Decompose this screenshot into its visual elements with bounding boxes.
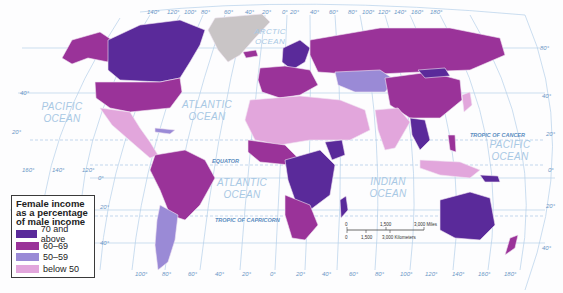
lon-label: 80° bbox=[375, 271, 385, 277]
madagascar bbox=[340, 196, 348, 218]
lon-label: 60° bbox=[224, 9, 234, 15]
scandinavia bbox=[282, 40, 310, 70]
legend-item-below-50: below 50 bbox=[16, 264, 90, 274]
lat-label: 0° bbox=[548, 167, 554, 173]
usa bbox=[95, 78, 182, 112]
arctic-ocean-label-line2: OCEAN bbox=[255, 37, 285, 46]
legend-swatch bbox=[16, 230, 37, 238]
legend-title: Female income as a percentage of male in… bbox=[16, 199, 90, 226]
lon-label: 100° bbox=[135, 271, 148, 277]
lon-label: 160° bbox=[478, 271, 491, 277]
canada bbox=[108, 20, 205, 82]
north-africa-middle-east bbox=[245, 96, 370, 145]
lon-label: 20° bbox=[295, 271, 306, 277]
longitude-labels-bottom: 100° 80° 60° 40° 20° 0° 20° 40° 60° 80° … bbox=[135, 271, 517, 277]
lon-label: 160° bbox=[22, 167, 35, 173]
japan bbox=[462, 92, 472, 112]
scale-bar: 0 1,500 3,000 Miles 0 1,500 3,000 Kilome… bbox=[342, 220, 452, 244]
lon-label: 160° bbox=[411, 9, 424, 15]
lon-label: 180° bbox=[430, 9, 443, 15]
atlantic-ocean-label-north-line2: OCEAN bbox=[188, 111, 226, 122]
papua bbox=[480, 175, 500, 182]
lon-label: 140° bbox=[52, 167, 65, 173]
legend-item-50-59: 50–59 bbox=[16, 252, 90, 262]
lon-label: 120° bbox=[378, 9, 391, 15]
lat-label: 20° bbox=[545, 203, 556, 209]
lat-label: 0° bbox=[98, 175, 104, 181]
lon-label: 0° bbox=[282, 9, 288, 15]
longitude-labels-middle: 160° 140° 120° bbox=[22, 167, 95, 173]
russia bbox=[310, 28, 505, 75]
atlantic-ocean-label-south: ATLANTIC bbox=[216, 177, 267, 188]
lon-label: 40° bbox=[215, 271, 225, 277]
lon-label: 60° bbox=[188, 271, 198, 277]
lon-label: 100° bbox=[400, 271, 413, 277]
lon-label: 40° bbox=[322, 271, 332, 277]
lon-label: 40° bbox=[310, 9, 320, 15]
lon-label: 120° bbox=[425, 271, 438, 277]
lon-label: 60° bbox=[349, 271, 359, 277]
legend-label: below 50 bbox=[43, 264, 79, 274]
tropic-of-capricorn-label: TROPIC OF CAPRICORN bbox=[215, 217, 281, 223]
lon-label: 60° bbox=[329, 9, 339, 15]
indian-ocean-label-line2: OCEAN bbox=[369, 188, 407, 199]
pacific-ocean-label-east-line2: OCEAN bbox=[43, 113, 81, 124]
lat-label: 20° bbox=[11, 129, 22, 135]
legend-label: 50–59 bbox=[43, 252, 68, 262]
caribbean bbox=[155, 128, 175, 134]
lat-label: 40° bbox=[542, 245, 552, 251]
equator-label: EQUATOR bbox=[212, 158, 239, 164]
lon-label: 40° bbox=[245, 9, 255, 15]
scale-km-3000: 3,000 Kilometers bbox=[382, 235, 417, 240]
lat-label: 20° bbox=[99, 204, 110, 210]
pacific-ocean-label-east: PACIFIC bbox=[42, 101, 83, 112]
lat-label: 20° bbox=[545, 131, 556, 137]
scale-miles-0: 0 bbox=[345, 222, 348, 227]
iceland bbox=[243, 50, 258, 58]
lon-label: 100° bbox=[184, 9, 197, 15]
lon-label: 0° bbox=[270, 271, 276, 277]
atlantic-ocean-label-south-line2: OCEAN bbox=[223, 189, 261, 200]
lat-label: 40° bbox=[100, 240, 110, 246]
alaska bbox=[62, 32, 112, 64]
lon-label: 140° bbox=[147, 9, 160, 15]
lat-label: 40° bbox=[20, 90, 30, 96]
ethiopia bbox=[325, 140, 345, 160]
scale-km-1500: 1,500 bbox=[361, 235, 373, 240]
legend-swatch bbox=[16, 242, 39, 250]
lat-label: 80° bbox=[540, 45, 550, 51]
lon-label: 100° bbox=[362, 9, 375, 15]
lat-label: 40° bbox=[542, 93, 552, 99]
indonesia bbox=[420, 160, 480, 178]
atlantic-ocean-label-north: ATLANTIC bbox=[181, 99, 232, 110]
lon-label: 140° bbox=[452, 271, 465, 277]
new-zealand bbox=[505, 235, 518, 255]
longitude-labels-top: 140° 120° 100° 80° 60° 40° 20° 0° 20° 40… bbox=[147, 9, 443, 15]
lon-label: 20° bbox=[241, 271, 252, 277]
lon-label: 20° bbox=[261, 9, 272, 15]
lon-label: 120° bbox=[82, 167, 95, 173]
legend-item-70-above: 70 and above bbox=[16, 229, 90, 239]
scale-miles-1500: 1,500 bbox=[380, 222, 392, 227]
pacific-ocean-label-west-line2: OCEAN bbox=[491, 151, 529, 162]
scale-miles-3000: 3,000 Miles bbox=[414, 222, 438, 227]
legend: Female income as a percentage of male in… bbox=[11, 195, 95, 278]
southeast-asia bbox=[410, 118, 430, 150]
legend-swatch bbox=[16, 253, 39, 261]
arctic-ocean-label: ARCTIC bbox=[253, 27, 286, 36]
lon-label: 120° bbox=[167, 9, 180, 15]
tropic-of-cancer-label: TROPIC OF CANCER bbox=[470, 132, 525, 138]
mexico bbox=[100, 108, 158, 158]
legend-swatch bbox=[16, 265, 39, 273]
scale-km-0: 0 bbox=[345, 235, 348, 240]
south-america-south bbox=[155, 205, 178, 270]
lon-label: 80° bbox=[162, 271, 172, 277]
philippines bbox=[448, 135, 456, 152]
lon-label: 140° bbox=[394, 9, 407, 15]
indian-ocean-label: INDIAN bbox=[370, 176, 406, 187]
lon-label: 20° bbox=[289, 9, 300, 15]
lon-label: 180° bbox=[504, 271, 517, 277]
legend-label: 60–69 bbox=[43, 241, 68, 251]
lon-label: 80° bbox=[348, 9, 358, 15]
pacific-ocean-label-west: PACIFIC bbox=[490, 139, 531, 150]
